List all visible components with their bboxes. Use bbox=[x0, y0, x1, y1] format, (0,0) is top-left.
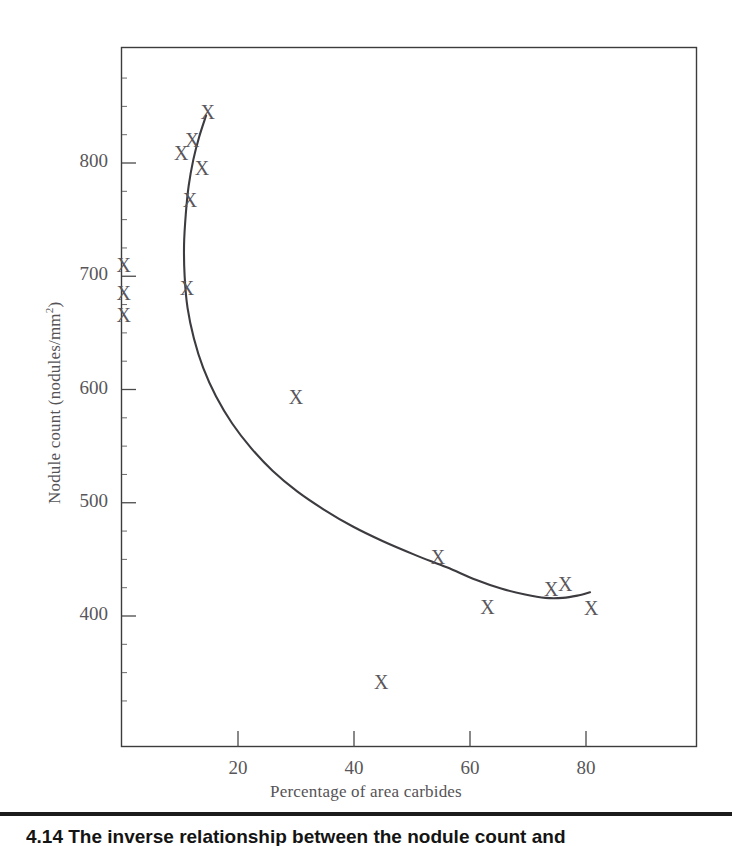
x-axis-major-ticks bbox=[238, 731, 586, 747]
data-marker-2: X bbox=[174, 142, 189, 164]
data-marker-15: X bbox=[374, 671, 389, 693]
chart-canvas: XXXXXXXXXXXXXXXX bbox=[0, 0, 732, 846]
x-tick-label-80: 80 bbox=[556, 757, 616, 779]
data-marker-5: X bbox=[117, 254, 132, 276]
y-tick-label-400: 400 bbox=[48, 603, 108, 625]
y-axis-title-superscript: 2 bbox=[43, 308, 55, 314]
data-marker-6: X bbox=[117, 282, 132, 304]
data-marker-10: X bbox=[431, 546, 446, 568]
data-marker-9: X bbox=[289, 386, 304, 408]
y-axis-title-suffix: ) bbox=[45, 302, 64, 308]
data-marker-3: X bbox=[195, 157, 210, 179]
y-tick-label-800: 800 bbox=[48, 150, 108, 172]
data-marker-8: X bbox=[180, 277, 195, 299]
x-tick-label-60: 60 bbox=[440, 757, 500, 779]
data-marker-7: X bbox=[117, 304, 132, 326]
data-marker-4: X bbox=[183, 189, 198, 211]
y-axis-title-main: Nodule count (nodules/mm bbox=[45, 313, 64, 504]
x-axis-title: Percentage of area carbides bbox=[0, 782, 732, 802]
data-marker-14: X bbox=[584, 597, 599, 619]
plot-frame bbox=[122, 48, 697, 747]
x-tick-label-20: 20 bbox=[208, 757, 268, 779]
data-marker-13: X bbox=[558, 573, 573, 595]
y-axis-title: Nodule count (nodules/mm2) bbox=[43, 223, 65, 583]
data-marker-11: X bbox=[480, 596, 495, 618]
x-tick-label-40: 40 bbox=[324, 757, 384, 779]
y-axis-major-ticks bbox=[122, 163, 136, 616]
figure-caption: 4.14 The inverse relationship between th… bbox=[26, 826, 726, 846]
data-marker-0: X bbox=[201, 101, 216, 123]
data-point-markers: XXXXXXXXXXXXXXXX bbox=[117, 101, 599, 693]
fitted-trend-curve bbox=[184, 115, 590, 598]
figure-container: XXXXXXXXXXXXXXXX 40050060070080020406080… bbox=[0, 0, 732, 846]
caption-divider-rule bbox=[0, 812, 732, 816]
data-marker-12: X bbox=[544, 578, 559, 600]
